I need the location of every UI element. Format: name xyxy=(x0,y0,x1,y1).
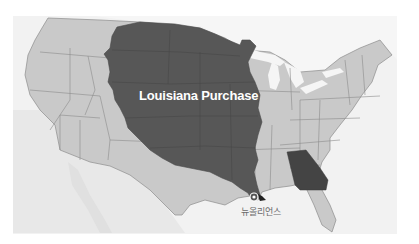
map-frame: Louisiana Purchase 뉴올리언스 xyxy=(0,0,419,244)
us-map xyxy=(0,0,419,244)
louisiana-purchase-label: Louisiana Purchase xyxy=(139,88,258,103)
new-orleans-label[interactable]: 뉴올리언스 xyxy=(241,205,281,218)
